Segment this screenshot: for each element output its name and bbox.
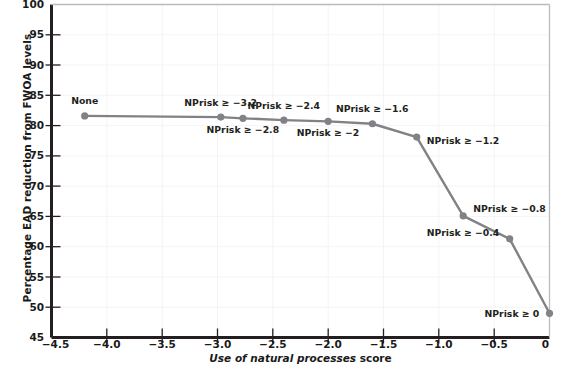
y-axis-tick-text: 50 bbox=[10, 302, 44, 313]
data-point-label: None bbox=[71, 96, 98, 105]
x-axis-tick-text: −1.5 bbox=[359, 339, 409, 350]
x-axis-tick-text: −0.5 bbox=[469, 339, 519, 350]
y-axis-tick-text: 55 bbox=[10, 272, 44, 283]
y-axis-tick-text: 80 bbox=[10, 120, 44, 131]
data-point-marker[interactable] bbox=[413, 133, 420, 140]
y-axis-tick-text: 65 bbox=[10, 211, 44, 222]
data-point-label: NPrisk ≥ −0.8 bbox=[473, 204, 546, 213]
y-axis-tick-text: 85 bbox=[10, 90, 44, 101]
data-point-label: NPrisk ≥ −0.4 bbox=[427, 228, 500, 237]
x-axis-tick-text: −4.5 bbox=[31, 339, 81, 350]
y-axis-tick-text: 70 bbox=[10, 181, 44, 192]
y-axis-tick-text: 95 bbox=[10, 29, 44, 40]
x-axis-tick-text: −2.0 bbox=[303, 339, 353, 350]
data-point-label: NPrisk ≥ −3.2 bbox=[184, 98, 257, 107]
x-axis-tick-text: −3.0 bbox=[193, 339, 243, 350]
x-axis-tick-text: −3.5 bbox=[137, 339, 187, 350]
x-axis-title-italic: Use of natural processes bbox=[209, 352, 356, 364]
y-axis-tick-text: 60 bbox=[10, 241, 44, 252]
data-point-marker[interactable] bbox=[81, 112, 88, 119]
data-point-label: NPrisk ≥ −1.2 bbox=[427, 136, 500, 145]
data-point-marker[interactable] bbox=[239, 115, 246, 122]
x-axis-tick-text: −4.0 bbox=[82, 339, 132, 350]
data-point-marker[interactable] bbox=[460, 212, 467, 219]
x-axis-tick-text: 0 bbox=[521, 339, 561, 350]
plot-background bbox=[52, 5, 550, 338]
data-point-label: NPrisk ≥ −1.6 bbox=[336, 104, 409, 113]
data-point-marker[interactable] bbox=[325, 118, 332, 125]
chart-canvas bbox=[0, 0, 561, 371]
data-point-marker[interactable] bbox=[280, 117, 287, 124]
data-point-marker[interactable] bbox=[506, 235, 513, 242]
x-axis-title-tail: score bbox=[356, 352, 392, 364]
data-point-label: NPrisk ≥ 0 bbox=[485, 309, 540, 318]
data-point-marker[interactable] bbox=[546, 310, 553, 317]
y-axis-tick-text: 90 bbox=[10, 60, 44, 71]
x-axis-tick-text: −2.5 bbox=[248, 339, 298, 350]
y-axis-tick-text: 75 bbox=[10, 150, 44, 161]
data-point-marker[interactable] bbox=[369, 120, 376, 127]
y-axis-tick-text: 100 bbox=[10, 0, 44, 10]
x-axis-tick-text: −1.0 bbox=[414, 339, 464, 350]
x-axis-title: Use of natural processes score bbox=[51, 352, 550, 364]
data-point-marker[interactable] bbox=[217, 114, 224, 121]
data-point-label: NPrisk ≥ −2.4 bbox=[247, 101, 320, 110]
data-point-label: NPrisk ≥ −2.8 bbox=[207, 125, 280, 134]
data-point-label: NPrisk ≥ −2 bbox=[297, 128, 360, 137]
chart-figure: Percentage EAD reduction from FWOA level… bbox=[0, 0, 561, 371]
